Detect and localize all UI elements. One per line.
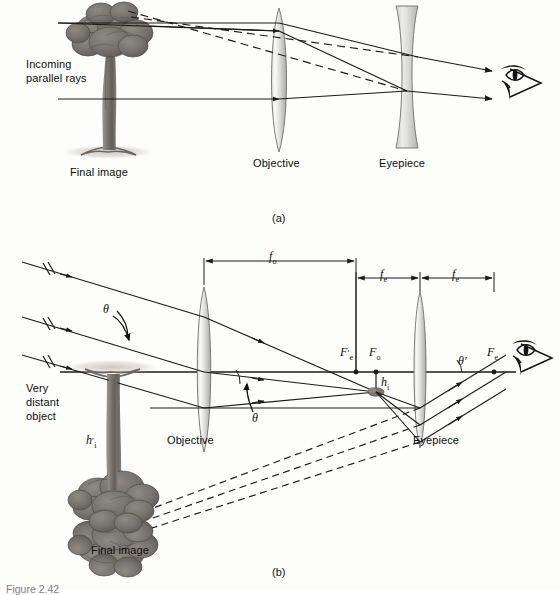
dim-label-fe-left: fe <box>380 264 387 286</box>
figure-caption: Figure 2.42 <box>6 583 59 595</box>
label-Fe-prime: F′e <box>340 342 353 364</box>
label-theta-prime: θ′ <box>458 355 467 368</box>
panel-a-eye-icon <box>501 65 541 101</box>
panel-a-eyepiece-lens <box>396 6 418 148</box>
label-incoming-parallel-rays-line1: Incoming <box>26 58 71 71</box>
label-Fo: Fo <box>369 342 381 364</box>
panel-b-objective-lens <box>197 287 211 452</box>
dim-label-fe-right: fe <box>452 264 459 286</box>
label-panel-b-final-image: Final image <box>91 544 149 557</box>
emergent-ray-2 <box>420 372 506 425</box>
panel-a-group <box>58 2 541 159</box>
ray-top-to-eye <box>418 57 492 71</box>
refracted-ray-3 <box>204 392 376 408</box>
parallel-slash-marks <box>43 262 55 368</box>
label-panel-b-objective: Objective <box>167 434 214 447</box>
incoming-ray-1 <box>22 262 204 317</box>
label-very-distant-line2: distant <box>26 396 59 409</box>
point-Fo <box>374 370 379 375</box>
panel-b-eye-icon <box>512 340 552 376</box>
label-Fe: Fe <box>487 342 498 364</box>
point-Fe-prime <box>354 370 359 375</box>
label-very-distant-line3: object <box>26 410 56 423</box>
label-hi-prime: h′i <box>86 430 97 452</box>
label-panel-a-eyepiece: Eyepiece <box>379 157 425 170</box>
panel-b-final-image-trunk <box>107 378 118 490</box>
dashed-back-3 <box>152 442 420 528</box>
dim-label-fo: fo <box>269 246 277 268</box>
dashed-back-1 <box>148 408 420 510</box>
panel-b-eyepiece-rays <box>376 355 506 442</box>
dim-fo <box>204 258 356 372</box>
label-very-distant-line1: Very <box>26 382 48 395</box>
label-panel-a-final-image: Final image <box>70 166 128 179</box>
theta-object-callout <box>113 311 129 340</box>
point-Fe <box>492 370 497 375</box>
panel-a-objective-lens <box>272 8 287 152</box>
ray-upper-refracted <box>279 31 407 91</box>
label-theta-object: θ <box>103 303 109 316</box>
ray-lower-refracted <box>279 91 407 99</box>
dim-fe-left <box>356 272 420 372</box>
ray-upper-to-eye <box>407 91 492 99</box>
label-panel-b-eyepiece: Eyepiece <box>413 434 459 447</box>
label-hi: hi <box>381 372 389 394</box>
refracted-ray-2 <box>204 372 376 392</box>
label-incoming-parallel-rays-line2: parallel rays <box>26 72 87 85</box>
panel-b-group <box>22 258 552 577</box>
panel-b-tag: (b) <box>272 566 285 578</box>
panel-b-dashed-backextension <box>148 408 420 528</box>
panel-a-tag: (a) <box>272 212 285 224</box>
label-theta-objective: θ <box>252 412 258 425</box>
label-panel-a-objective: Objective <box>253 157 300 170</box>
